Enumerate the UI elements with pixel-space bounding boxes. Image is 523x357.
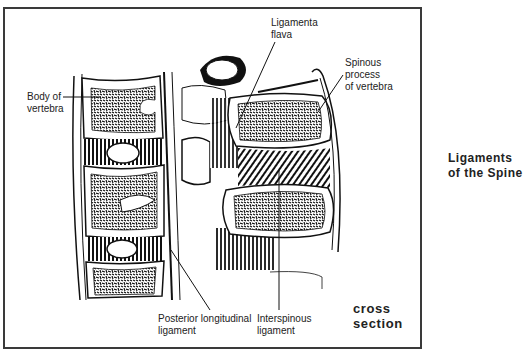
spinous-process-lower	[223, 184, 334, 237]
label-line: process	[345, 69, 393, 81]
spinous-process-upper	[228, 93, 331, 148]
vertebral-body-lower	[86, 261, 164, 298]
label-body-of-vertebra: Body of vertebra	[27, 91, 64, 115]
label-line: Spinous	[345, 57, 393, 69]
vertebral-body-middle	[84, 165, 164, 238]
figure-title: Ligaments of the Spine	[448, 151, 523, 181]
label-posterior-longitudinal-ligament: Posterior longitudinal ligament	[158, 313, 251, 337]
caption-cross-section: cross section	[353, 301, 403, 331]
label-interspinous-ligament: Interspinous ligament	[257, 313, 311, 337]
leader-line-spinous	[318, 75, 343, 112]
label-ligamenta-flava: Ligamenta flava	[271, 17, 318, 41]
leader-line-posterior-longitudinal	[171, 250, 210, 310]
label-line: ligament	[257, 325, 311, 337]
vertebral-body-upper	[82, 76, 163, 140]
label-line: ligament	[158, 325, 251, 337]
label-line: vertebra	[27, 103, 64, 115]
intervertebral-disc-upper	[82, 139, 164, 165]
label-line: flava	[271, 29, 318, 41]
title-line: of the Spine	[448, 166, 523, 181]
label-line: Ligamenta	[271, 17, 318, 29]
label-line: Interspinous	[257, 313, 311, 325]
caption-line: section	[353, 316, 403, 331]
label-spinous-process: Spinous process of vertebra	[345, 57, 393, 93]
intervertebral-disc-lower	[86, 237, 164, 261]
articular-process	[200, 56, 246, 86]
label-line: of vertebra	[345, 81, 393, 93]
caption-line: cross	[353, 301, 403, 316]
title-line: Ligaments	[448, 151, 523, 166]
label-line: Body of	[27, 91, 64, 103]
label-line: Posterior longitudinal	[158, 313, 251, 325]
